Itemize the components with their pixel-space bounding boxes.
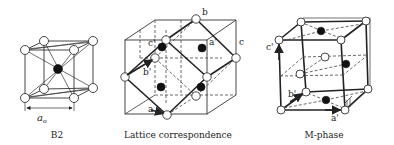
- corner-atom-icon: [89, 84, 98, 93]
- atom-black-icon: [322, 96, 330, 104]
- corner-atom-icon: [70, 46, 79, 55]
- axis-label-b: b: [202, 7, 208, 17]
- lattice-correspondence-panel: b c a' c' b' a Lattice correspondence: [121, 7, 244, 140]
- atom-white-icon: [275, 36, 283, 44]
- m-phase-caption: M-phase: [304, 130, 343, 140]
- lattice-parameter-label: ao: [37, 112, 47, 124]
- atom-white-icon: [297, 18, 305, 26]
- atom-white-icon: [192, 92, 200, 100]
- b2-dimension: ao: [25, 103, 74, 124]
- axis-label-a-prime: a': [331, 113, 339, 123]
- atom-black-icon: [317, 27, 325, 35]
- atom-white-icon: [364, 85, 372, 93]
- atom-black-icon: [197, 83, 205, 91]
- crystal-structure-figure: ao B2: [0, 0, 394, 145]
- atom-white-icon: [192, 15, 200, 23]
- atom-white-icon: [302, 88, 310, 96]
- atom-white-icon: [321, 53, 329, 61]
- atom-black-icon: [342, 60, 350, 68]
- corner-atom-icon: [21, 94, 30, 103]
- axis-label-c-prime: c': [148, 38, 156, 48]
- axis-label-a-prime: a': [209, 37, 217, 47]
- b2-caption: B2: [51, 130, 63, 140]
- corner-atom-icon: [89, 37, 98, 46]
- m-phase-panel: c' b' a' M-phase: [266, 17, 372, 140]
- center-atom-icon: [54, 65, 63, 74]
- atom-white-icon: [232, 54, 240, 62]
- axis-label-b-prime: b': [143, 67, 151, 77]
- axis-label-c: c: [239, 37, 244, 47]
- atom-white-icon: [277, 106, 285, 114]
- atom-white-icon: [362, 17, 370, 25]
- corner-atom-icon: [40, 85, 49, 94]
- atom-black-icon: [158, 43, 166, 51]
- atom-black-icon: [198, 44, 206, 52]
- axis-label-b-prime: b': [288, 89, 296, 99]
- lattice-correspondence-caption: Lattice correspondence: [124, 130, 232, 140]
- axis-label-c-prime: c': [266, 42, 274, 52]
- corner-atom-icon: [21, 46, 30, 55]
- atom-white-icon: [163, 111, 171, 119]
- b2-panel: ao B2: [21, 37, 98, 141]
- atom-white-icon: [337, 36, 345, 44]
- axis-label-a: a: [148, 104, 154, 114]
- atom-white-icon: [151, 54, 159, 62]
- corner-atom-icon: [70, 94, 79, 103]
- corner-atom-icon: [40, 37, 49, 46]
- atom-black-icon: [157, 83, 165, 91]
- atom-white-icon: [296, 70, 304, 78]
- atom-white-icon: [203, 73, 211, 81]
- atom-white-icon: [341, 106, 349, 114]
